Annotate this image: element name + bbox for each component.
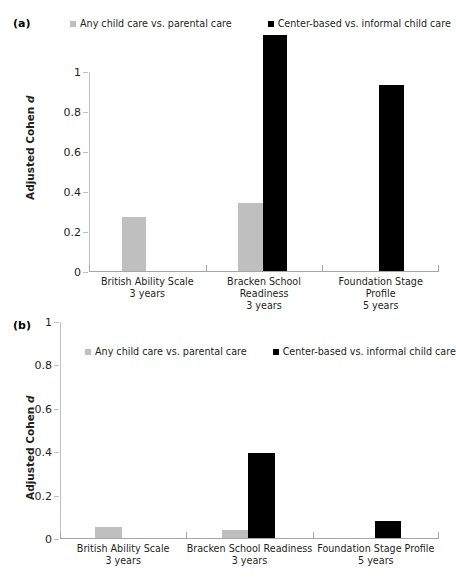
legend-swatch-black-icon bbox=[268, 21, 274, 27]
panel-a-bar-1-series-0 bbox=[238, 203, 263, 271]
panel-a-y-tick-2 bbox=[83, 192, 88, 193]
panel-a-y-axis-label-text: Adjusted Cohen d bbox=[24, 96, 36, 200]
panel-b-category-labels: British Ability Scale 3 years Bracken Sc… bbox=[60, 543, 439, 567]
panel-a-category-0-line1: British Ability Scale bbox=[101, 276, 194, 287]
panel-b-letter: (b) bbox=[13, 319, 31, 332]
panel-a-category-1-line1: Bracken School Readiness bbox=[227, 276, 301, 299]
panel-a-bar-1-series-1 bbox=[263, 35, 288, 271]
panel-a-y-axis-line bbox=[89, 72, 90, 272]
panel-b-category-2-line1: Foundation Stage Profile bbox=[317, 543, 434, 554]
panel-b-y-tick-0 bbox=[54, 539, 59, 540]
panel-b-category-0: British Ability Scale 3 years bbox=[60, 543, 186, 567]
panel-a-y-axis-label: Adjusted Cohen d bbox=[24, 96, 36, 200]
panel-a-y-tick-5 bbox=[83, 72, 88, 73]
panel-a: (a) Any child care vs. parental care Cen… bbox=[0, 0, 446, 300]
panel-b-x-tick-2 bbox=[313, 532, 314, 539]
panel-a-legend: Any child care vs. parental care Center-… bbox=[70, 18, 451, 29]
panel-a-y-tick-label-5: 1 bbox=[74, 66, 81, 79]
panel-b-x-axis-line bbox=[60, 538, 439, 539]
panel-a-y-tick-label-2: 0.4 bbox=[64, 186, 82, 199]
panel-b-category-1-line2: 3 years bbox=[186, 555, 312, 567]
panel-a-x-tick-3 bbox=[438, 265, 439, 272]
panel-b-bar-0-series-0 bbox=[95, 527, 122, 538]
legend-entry-center-based: Center-based vs. informal child care bbox=[268, 18, 451, 29]
panel-b-y-tick-1 bbox=[54, 496, 59, 497]
panel-a-x-axis-line bbox=[89, 271, 439, 272]
panel-a-bar-2-series-1 bbox=[379, 85, 404, 271]
panel-a-y-tick-label-1: 0.2 bbox=[64, 226, 82, 239]
panel-a-y-tick-label-3: 0.6 bbox=[64, 146, 82, 159]
panel-b-category-1-line1: Bracken School Readiness bbox=[187, 543, 313, 554]
panel-a-bar-0-series-0 bbox=[122, 217, 147, 271]
panel-b-x-tick-0 bbox=[60, 532, 61, 539]
panel-b-x-tick-1 bbox=[186, 532, 187, 539]
panel-a-y-tick-4 bbox=[83, 112, 88, 113]
panel-b-category-1: Bracken School Readiness 3 years bbox=[186, 543, 312, 567]
panel-a-category-0-line2: 3 years bbox=[89, 288, 206, 300]
panel-a-x-tick-2 bbox=[322, 265, 323, 272]
panel-b: (b) Any child care vs. parental care Cen… bbox=[0, 300, 446, 588]
panel-b-category-0-line2: 3 years bbox=[60, 555, 186, 567]
panel-b-bar-1-series-0 bbox=[222, 530, 249, 538]
panel-b-category-0-line1: British Ability Scale bbox=[77, 543, 170, 554]
panel-a-y-tick-label-4: 0.8 bbox=[64, 106, 82, 119]
legend-entry-any-child-care: Any child care vs. parental care bbox=[70, 18, 232, 29]
panel-b-y-tick-2 bbox=[54, 452, 59, 453]
panel-a-category-2-line1: Foundation Stage Profile bbox=[339, 276, 423, 299]
panel-b-y-tick-5 bbox=[54, 322, 59, 323]
panel-b-y-tick-4 bbox=[54, 365, 59, 366]
panel-b-y-tick-label-2: 0.4 bbox=[35, 446, 53, 459]
panel-a-plot-area: 00.20.40.60.81 bbox=[89, 72, 439, 272]
panel-b-bar-2-series-1 bbox=[375, 521, 402, 538]
panel-a-x-tick-0 bbox=[89, 265, 90, 272]
panel-a-x-tick-1 bbox=[206, 265, 207, 272]
panel-b-y-tick-label-3: 0.6 bbox=[35, 402, 53, 415]
panel-a-y-tick-0 bbox=[83, 272, 88, 273]
legend-label-center-based: Center-based vs. informal child care bbox=[278, 18, 451, 29]
panel-a-y-tick-label-0: 0 bbox=[74, 266, 81, 279]
panel-b-category-2: Foundation Stage Profile 5 years bbox=[313, 543, 439, 567]
panel-b-category-2-line2: 5 years bbox=[313, 555, 439, 567]
panel-b-y-axis-line bbox=[60, 322, 61, 539]
legend-label-any-child-care: Any child care vs. parental care bbox=[80, 18, 232, 29]
panel-b-y-tick-label-0: 0 bbox=[45, 533, 52, 546]
panel-b-y-tick-label-4: 0.8 bbox=[35, 359, 53, 372]
panel-a-y-tick-3 bbox=[83, 152, 88, 153]
panel-b-x-tick-3 bbox=[438, 532, 439, 539]
legend-swatch-gray-icon bbox=[70, 21, 76, 27]
panel-b-y-tick-label-1: 0.2 bbox=[35, 489, 53, 502]
panel-b-plot-area: 00.20.40.60.81 bbox=[60, 322, 439, 539]
panel-b-bar-1-series-1 bbox=[248, 453, 275, 538]
panel-a-letter: (a) bbox=[13, 17, 30, 30]
panel-a-y-tick-1 bbox=[83, 232, 88, 233]
panel-b-y-tick-label-5: 1 bbox=[45, 316, 52, 329]
panel-b-y-tick-3 bbox=[54, 409, 59, 410]
